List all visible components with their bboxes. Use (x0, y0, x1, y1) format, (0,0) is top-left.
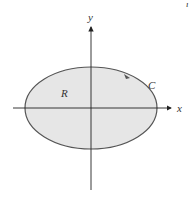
region-diagram: y x R C ı (0, 0, 192, 201)
region-label: R (60, 87, 68, 99)
y-axis-label: y (87, 11, 93, 23)
curve-label: C (148, 79, 156, 91)
corner-fragment: ı (186, 0, 189, 9)
x-axis-label: x (176, 102, 182, 114)
